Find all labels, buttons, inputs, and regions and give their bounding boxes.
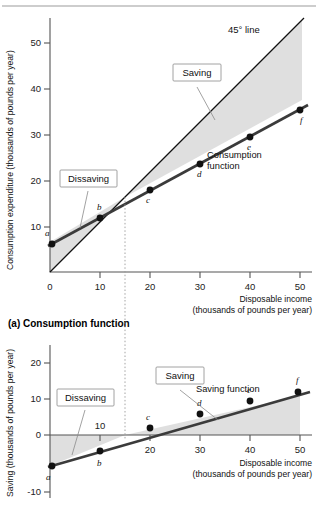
xtick-label: 0 [47,281,52,292]
data-point [197,161,204,168]
panel-a-xticks: 0 10 20 30 40 50 [47,272,305,292]
panel-a-xaxis-title-line1: Disposable income [239,294,312,304]
data-point [147,425,154,432]
point-label: c [146,412,150,422]
panel-consumption-function: 50 40 30 20 10 0 10 20 30 40 50 [5,18,312,329]
consumption-function-label-line1: Consumption [207,150,262,160]
panel-b-xaxis-title-line2: (thousands of pounds per year) [193,469,313,479]
forty-five-degree-line-label: 45° line [228,24,260,35]
data-point [147,187,154,194]
xtick-label: 50 [295,281,306,292]
point-label: b [97,458,102,468]
saving-function-label: Saving function [196,384,260,394]
saving-callout-label: Saving [165,370,194,381]
data-point [295,389,302,396]
point-label: f [296,375,300,385]
xtick-label: 40 [245,444,256,455]
panel-a-xaxis-title-line2: (thousands of pounds per year) [193,305,313,315]
ytick-label: 20 [30,175,41,186]
ytick-label: 40 [30,83,41,94]
forty-five-degree-line [50,18,304,272]
ytick-label: -10 [27,486,41,497]
data-point [97,448,104,455]
panel-a-caption: (a) Consumption function [8,318,130,329]
dissaving-callout-label: Dissaving [68,173,109,184]
data-point [97,215,104,222]
xtick-label: 20 [145,444,156,455]
point-label: d [197,169,202,179]
point-label: a [45,228,50,238]
point-label: c [146,195,150,205]
panel-b-yaxis-title: Saving (thousands of pounds per year) [5,349,15,497]
dissaving-region-b [50,435,125,466]
ytick-label: 20 [30,357,41,368]
point-label: f [300,115,304,125]
data-point [247,134,254,141]
xtick-label: 30 [195,444,206,455]
data-point [197,411,204,418]
data-point [247,398,254,405]
data-point [49,463,56,470]
consumption-function-label-line2: function [207,161,240,171]
xtick-label: 20 [145,281,156,292]
ytick-label: 10 [30,393,41,404]
dissaving-callout-label: Dissaving [65,392,106,403]
panel-saving-function: 20 10 0 -10 10 20 30 40 50 [5,300,312,498]
xtick-label: 10 [95,420,106,431]
economics-figure: 50 40 30 20 10 0 10 20 30 40 50 [0,0,318,508]
saving-callout-label: Saving [182,67,211,78]
point-label: a [46,472,51,482]
data-point [297,107,304,114]
ytick-label: 50 [30,37,41,48]
xtick-label: 40 [245,281,256,292]
xtick-label: 30 [195,281,206,292]
point-label: b [97,202,102,212]
data-point [49,241,56,248]
panel-a-yticks: 50 40 30 20 10 [30,37,50,232]
ytick-label: 0 [36,429,41,440]
ytick-label: 30 [30,129,41,140]
panel-b-xaxis-title-line1: Disposable income [239,458,312,468]
panel-a-yaxis-title: Consumption expenditure (thousands of po… [5,50,15,270]
xtick-label: 50 [295,444,306,455]
xtick-label: 10 [95,281,106,292]
ytick-label: 10 [30,221,41,232]
